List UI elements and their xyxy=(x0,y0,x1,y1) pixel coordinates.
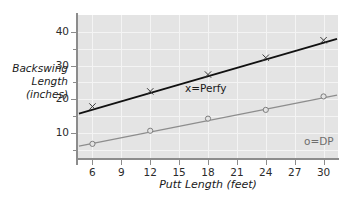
x-tick-label: 12 xyxy=(139,166,161,178)
x-axis-title: Putt Length (feet) xyxy=(78,178,338,191)
y-tick-label: 10 xyxy=(43,126,69,138)
y-tick-label: 20 xyxy=(43,92,69,104)
x-tick-label: 24 xyxy=(255,166,277,178)
y-axis-spine xyxy=(76,13,78,165)
y-tick-minor xyxy=(73,116,77,117)
x-tick xyxy=(266,159,267,165)
data-point-marker xyxy=(90,141,95,146)
x-tick-label: 18 xyxy=(197,166,219,178)
x-tick xyxy=(237,159,238,165)
y-tick xyxy=(71,32,77,33)
chart-figure: Backswing Length (inches) x=Perfy o=DP 6… xyxy=(0,0,346,199)
y-tick xyxy=(71,99,77,100)
x-tick xyxy=(179,159,180,165)
x-tick xyxy=(150,159,151,165)
x-tick xyxy=(324,159,325,165)
y-axis-title-line-2: Length xyxy=(2,75,68,88)
x-tick xyxy=(295,159,296,165)
data-point-marker xyxy=(263,107,268,112)
x-tick-label: 27 xyxy=(284,166,306,178)
legend-label-dp: o=DP xyxy=(304,135,334,147)
y-tick-label: 30 xyxy=(43,59,69,71)
x-tick-label: 15 xyxy=(168,166,190,178)
legend-label-perfy: x=Perfy xyxy=(185,82,226,94)
x-tick-label: 30 xyxy=(313,166,335,178)
x-tick-label: 9 xyxy=(110,166,132,178)
x-tick-label: 21 xyxy=(226,166,248,178)
plot-area: x=Perfy o=DP xyxy=(78,15,338,158)
y-tick-minor xyxy=(73,49,77,50)
x-tick xyxy=(121,159,122,165)
data-point-marker xyxy=(205,116,210,121)
data-point-marker xyxy=(321,94,326,99)
y-tick-minor xyxy=(73,150,77,151)
data-point-marker xyxy=(148,128,153,133)
x-tick xyxy=(208,159,209,165)
x-tick-label: 6 xyxy=(81,166,103,178)
y-tick xyxy=(71,133,77,134)
x-tick xyxy=(92,159,93,165)
y-tick-minor xyxy=(73,82,77,83)
y-tick-label: 40 xyxy=(43,25,69,37)
y-tick xyxy=(71,66,77,67)
